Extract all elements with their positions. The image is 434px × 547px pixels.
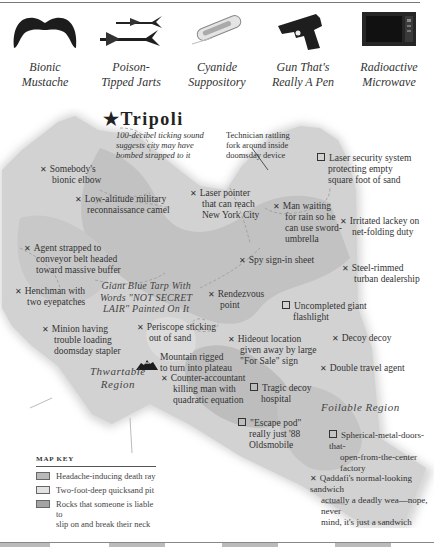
mountain-label: Mountain rigged to turn into plateau <box>160 352 232 374</box>
label-line: Mountain rigged <box>160 352 232 363</box>
label-line: Periscope sticking <box>147 322 216 332</box>
square-marker-icon <box>282 301 290 309</box>
label-line: Region <box>90 378 146 391</box>
marker-lackey: ✕Irritated lackey on net-folding duty <box>340 216 419 238</box>
label-line: "Escape pod" <box>250 418 301 428</box>
marker-factory: Spherical-metal-doors-that- open-from-th… <box>329 430 434 474</box>
label-line: Decoy decoy <box>342 333 392 343</box>
label-line: Henchman with <box>25 286 85 296</box>
swatch-quicksand <box>36 486 50 494</box>
suppository-icon <box>182 8 252 52</box>
tripoli-note: 100-decibel ticking sound suggests city … <box>116 130 204 160</box>
gadget-caption-line2: Mustache <box>2 75 88 90</box>
note-line: suggests city may have <box>116 140 204 150</box>
label-line: square foot of sand <box>317 175 411 186</box>
marker-flashlight: Uncompleted giant flashlight <box>282 301 367 323</box>
label-line: doomsday stapler <box>42 346 121 357</box>
label-line: out of sand <box>137 333 216 344</box>
x-marker-icon: ✕ <box>342 264 349 273</box>
bottom-rule <box>0 543 434 547</box>
x-marker-icon: ✕ <box>208 290 215 299</box>
map-key-item: Headache-inducing death ray <box>36 471 156 481</box>
label-line: Spherical-metal-doors-that- <box>329 430 424 451</box>
label-line: Qaddafi's normal-looking sandwich <box>310 473 412 494</box>
label-line: protecting empty <box>317 164 411 175</box>
label-line: Hideout location <box>238 334 302 344</box>
label-line: New York City <box>190 210 259 221</box>
gadget-darts: Poison-Tipped Jarts <box>88 8 174 90</box>
x-marker-icon: ✕ <box>228 335 235 344</box>
x-marker-icon: ✕ <box>273 202 280 211</box>
label-line: Technician rattling <box>226 130 290 140</box>
label-line: can use sword- <box>273 223 342 234</box>
marker-sandwich: ✕Qaddafi's normal-looking sandwich actua… <box>310 473 434 528</box>
label-line: trouble loading <box>42 335 121 346</box>
square-marker-icon <box>238 418 246 426</box>
key-label: slip on and break their neck <box>56 519 156 529</box>
label-line: Rendezvous <box>218 289 264 299</box>
gadget-caption-line1: Bionic <box>2 60 88 75</box>
gadget-caption-line1: Poison- <box>88 60 174 75</box>
marker-henchman: ✕Henchman with two eyepatches <box>15 286 85 308</box>
marker-hideout: ✕Hideout location given away by large "F… <box>228 334 317 367</box>
label-line: Words "NOT SECRET <box>100 292 192 304</box>
gadget-gun: Gun That'sReally A Pen <box>260 8 346 90</box>
square-marker-icon <box>250 383 258 391</box>
gadget-row: BionicMustache Poison-Tipped Jarts Cyani… <box>0 8 434 108</box>
label-line: conveyor belt headed <box>24 254 121 265</box>
foilable-region-label: Foilable Region <box>321 401 400 414</box>
map-key-title: MAP KEY <box>36 455 156 467</box>
marker-decoy: ✕Decoy decoy <box>332 333 392 344</box>
gadget-caption-line2: Tipped Jarts <box>88 75 174 90</box>
gadget-caption-line1: Cyanide <box>174 60 260 75</box>
label-line: Minion having <box>52 324 108 334</box>
gadget-microwave: RadioactiveMicrowave <box>346 8 432 90</box>
marker-decoy-hospital: Tragic decoy hospital <box>250 383 312 405</box>
label-line: Spy sign-in sheet <box>249 255 314 265</box>
label-line: bionic elbow <box>40 175 101 186</box>
top-rule <box>0 2 420 3</box>
gadget-mustache: BionicMustache <box>2 8 88 90</box>
x-marker-icon: ✕ <box>40 165 47 174</box>
marker-rendezvous: ✕Rendezvous point <box>208 289 264 311</box>
label-line: Laser pointer <box>200 188 250 198</box>
label-line: Laser security system <box>329 153 411 163</box>
note-line: bombed strapped to it <box>116 150 204 160</box>
marker-agent: ✕Agent strapped to conveyor belt headed … <box>24 243 121 276</box>
label-line: Irritated lackey on <box>350 216 420 226</box>
label-line: Giant Blue Tarp With <box>100 280 192 292</box>
gadget-caption-line2: Microwave <box>346 75 432 90</box>
key-label: Two-foot-deep quicksand pit <box>56 485 154 495</box>
marker-periscope: ✕Periscope sticking out of sand <box>137 322 216 344</box>
marker-turban: ✕Steel-rimmed turban dealership <box>342 263 420 285</box>
gadget-caption-line1: Gun That's <box>260 60 346 75</box>
marker-escape-pod: "Escape pod" really just '88 Oldsmobile <box>238 418 301 451</box>
marker-counter-accountant: ✕Counter-accountant killing man with qua… <box>161 373 245 406</box>
marker-laser-pointer: ✕Laser pointer that can reach New York C… <box>190 188 259 221</box>
mustache-icon <box>10 8 80 52</box>
label-line: Counter-accountant <box>171 373 246 383</box>
x-marker-icon: ✕ <box>332 334 339 343</box>
map-key-item: Rocks that someone is liable toslip on a… <box>36 499 156 529</box>
swatch-rocks <box>36 500 50 508</box>
label-line: hospital <box>250 394 312 405</box>
label-line: Man waiting <box>283 201 331 211</box>
label-line: Low-altitude military <box>85 194 167 204</box>
gadget-caption-line1: Radioactive <box>346 60 432 75</box>
label-line: toward massive buffer <box>24 265 121 276</box>
gadget-caption-line2: Really A Pen <box>260 75 346 90</box>
x-marker-icon: ✕ <box>190 189 197 198</box>
blue-tarp-label: Giant Blue Tarp With Words "NOT SECRET L… <box>100 280 192 315</box>
label-line: LAIR" Painted On It <box>100 303 192 315</box>
gadget-suppository: CyanideSuppository <box>174 8 260 90</box>
label-line: open-from-the-center factory <box>329 452 434 474</box>
marker-minion: ✕Minion having trouble loading doomsday … <box>42 324 121 357</box>
label-line: Agent strapped to <box>34 243 102 253</box>
key-label: Headache-inducing death ray <box>56 471 156 481</box>
x-marker-icon: ✕ <box>15 287 22 296</box>
marker-camel: ✕Low-altitude military reconnaissance ca… <box>75 194 170 216</box>
label-line: doomsday device <box>226 150 290 160</box>
x-marker-icon: ✕ <box>320 364 327 373</box>
x-marker-icon: ✕ <box>310 474 317 483</box>
x-marker-icon: ✕ <box>340 217 347 226</box>
